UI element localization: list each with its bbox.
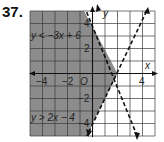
- line2-arrow-icon: [144, 7, 150, 14]
- inequality-graph: y x O −4 −2 4 4 2 −2 −4 y < −3x + 6 y > …: [0, 0, 164, 142]
- x-tick-neg2: −2: [62, 76, 74, 87]
- x-axis-label: x: [144, 60, 151, 71]
- y-tick-4: 4: [84, 18, 90, 29]
- y-tick-neg2: −2: [78, 93, 90, 104]
- y-axis-arrow-icon: [90, 6, 95, 12]
- x-tick-4: 4: [139, 76, 145, 87]
- inequality-label-1: y < −3x + 6: [30, 30, 81, 41]
- y-axis-label: y: [102, 8, 109, 19]
- inequality-label-2: y > 2x − 4: [30, 112, 75, 123]
- origin-label: O: [80, 76, 88, 87]
- y-tick-neg4: −4: [78, 118, 90, 129]
- y-tick-2: 2: [84, 43, 90, 54]
- x-tick-neg4: −4: [36, 76, 48, 87]
